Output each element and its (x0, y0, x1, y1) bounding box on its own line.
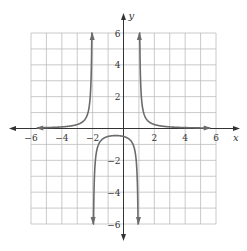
y-tick-label: 2 (115, 92, 121, 102)
x-tick-label: −4 (55, 133, 69, 143)
curve-middle-branch (93, 136, 138, 224)
y-axis-label: y (128, 10, 135, 21)
x-axis-arrow-icon (233, 126, 240, 131)
x-tick-label: 2 (151, 133, 157, 143)
y-tick-label: 6 (115, 29, 121, 39)
x-axis-arrow-left-icon (9, 126, 16, 131)
x-tick-label: −6 (24, 133, 38, 143)
y-tick-label: −4 (107, 188, 121, 198)
y-tick-label: −6 (107, 220, 121, 230)
arrow-left-icon (36, 126, 44, 131)
y-tick-label: −2 (107, 156, 120, 166)
x-tick-label: 6 (213, 133, 219, 143)
y-axis-arrow-down-icon (121, 234, 126, 241)
x-tick-label: −2 (86, 133, 99, 143)
y-axis-arrow-icon (121, 13, 126, 20)
x-axis-label: x (233, 132, 239, 143)
arrow-right-icon (204, 126, 212, 131)
graph: xy−6−4−2246642−2−4−6 (0, 0, 247, 251)
y-tick-label: 4 (115, 60, 121, 70)
tick-labels: xy−6−4−2246642−2−4−6 (24, 10, 239, 230)
x-tick-label: 4 (182, 133, 188, 143)
